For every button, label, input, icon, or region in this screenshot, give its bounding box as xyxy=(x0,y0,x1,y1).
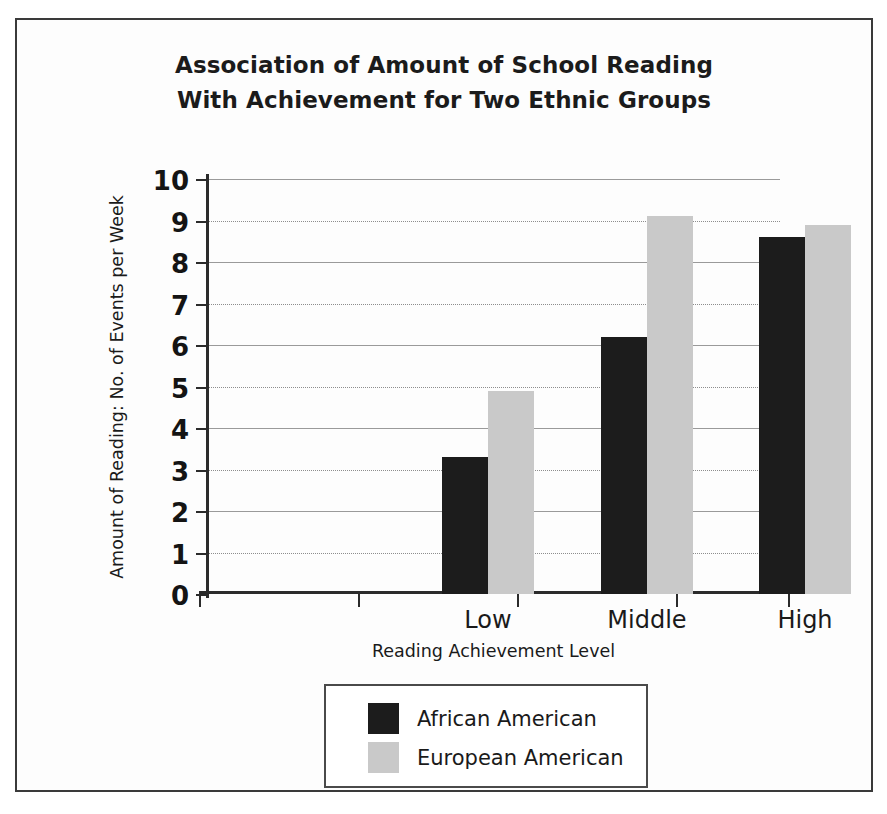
y-tick-label-4: 4 xyxy=(171,417,189,443)
legend-label-african-american: African American xyxy=(417,707,597,731)
figure-frame: Association of Amount of School Reading … xyxy=(15,18,873,792)
y-axis-title: Amount of Reading: No. of Events per Wee… xyxy=(104,179,130,594)
plot-area: 012345678910 LowMiddleHigh xyxy=(207,179,780,594)
gridline-6 xyxy=(207,345,780,346)
x-category-label-low: Low xyxy=(464,606,511,634)
x-tick-1 xyxy=(358,594,360,607)
bar-low-african-american xyxy=(442,457,488,594)
y-tick-label-2: 2 xyxy=(171,500,189,526)
bar-middle-african-american xyxy=(601,337,647,594)
legend-swatch-african-american xyxy=(368,703,399,734)
y-tick-label-8: 8 xyxy=(171,251,189,277)
x-tick-0 xyxy=(199,594,201,607)
bar-high-african-american xyxy=(759,237,805,594)
bar-low-european-american xyxy=(488,391,534,594)
gridline-5 xyxy=(207,387,780,388)
x-axis-title: Reading Achievement Level xyxy=(207,641,780,661)
gridline-8 xyxy=(207,262,780,263)
bar-middle-european-american xyxy=(647,216,693,594)
x-tick-2 xyxy=(517,594,519,607)
y-tick-label-1: 1 xyxy=(171,542,189,568)
x-category-label-middle: Middle xyxy=(607,606,686,634)
y-axis-title-text: Amount of Reading: No. of Events per Wee… xyxy=(107,195,127,579)
chart-title-line-2: With Achievement for Two Ethnic Groups xyxy=(17,83,871,118)
legend-label-european-american: European American xyxy=(417,746,624,770)
y-axis-line xyxy=(206,174,209,598)
legend-item-european-american: European American xyxy=(368,738,646,777)
chart-title-line-1: Association of Amount of School Reading xyxy=(17,48,871,83)
y-tick-label-10: 10 xyxy=(153,168,189,194)
y-tick-label-9: 9 xyxy=(171,210,189,236)
y-tick-label-5: 5 xyxy=(171,376,189,402)
y-tick-label-6: 6 xyxy=(171,334,189,360)
legend-item-african-american: African American xyxy=(368,699,646,738)
y-tick-label-7: 7 xyxy=(171,293,189,319)
y-tick-label-3: 3 xyxy=(171,459,189,485)
x-category-label-high: High xyxy=(777,606,832,634)
bar-high-european-american xyxy=(805,225,851,594)
legend-swatch-european-american xyxy=(368,742,399,773)
gridline-7 xyxy=(207,304,780,305)
gridline-9 xyxy=(207,221,780,222)
y-tick-label-0: 0 xyxy=(171,583,189,609)
chart-title: Association of Amount of School Reading … xyxy=(17,48,871,118)
gridline-10 xyxy=(207,179,780,180)
legend: African American European American xyxy=(324,684,648,788)
